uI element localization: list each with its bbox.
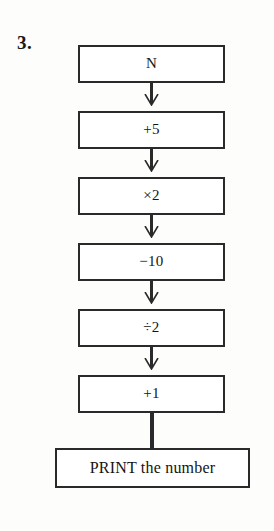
arrowhead-down-icon: [144, 226, 159, 237]
arrowhead-down-icon: [144, 160, 159, 171]
flow-node-start: N: [78, 45, 225, 83]
flow-node-label: ×2: [143, 188, 160, 203]
arrowhead-down-icon: [144, 94, 159, 105]
flow-node-times2: ×2: [78, 177, 225, 215]
flow-node-output: PRINT the number: [55, 448, 250, 488]
flow-node-add1: +1: [78, 375, 225, 413]
flow-node-minus10: −10: [78, 243, 225, 281]
flow-node-label: +5: [143, 122, 160, 137]
flow-node-label: −10: [139, 254, 163, 269]
arrowhead-down-icon: [144, 292, 159, 303]
flow-node-label: PRINT the number: [90, 460, 216, 476]
flow-node-divide2: ÷2: [78, 309, 225, 347]
flow-node-add5: +5: [78, 111, 225, 149]
flow-node-label: ÷2: [143, 320, 159, 335]
worksheet-page: 3. N +5 ×2 −10 ÷2: [0, 0, 274, 531]
flow-node-label: N: [146, 56, 157, 71]
flow-node-label: +1: [143, 386, 160, 401]
arrowhead-down-icon: [144, 358, 159, 369]
problem-number-label: 3.: [17, 33, 32, 52]
connector-line-add1-output: [150, 413, 154, 448]
